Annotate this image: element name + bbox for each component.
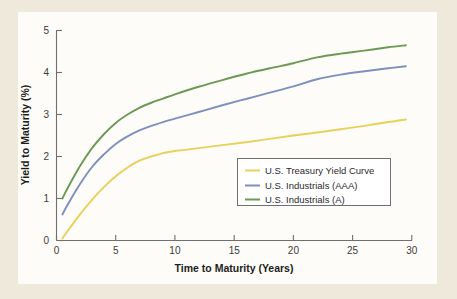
x-tick-label-20: 20 bbox=[288, 245, 300, 256]
y-axis-ticks bbox=[57, 31, 63, 241]
chart-legend: U.S. Treasury Yield Curve U.S. Industria… bbox=[238, 159, 391, 206]
y-tick-label-1: 1 bbox=[43, 193, 49, 204]
legend-label-1: U.S. Industrials (AAA) bbox=[265, 180, 357, 191]
x-tick-label-25: 25 bbox=[347, 245, 359, 256]
x-tick-label-5: 5 bbox=[113, 245, 119, 256]
y-tick-label-0: 0 bbox=[43, 235, 49, 246]
y-axis-tick-labels: 5 4 3 2 1 0 bbox=[43, 25, 49, 246]
y-tick-label-2: 2 bbox=[43, 151, 49, 162]
x-axis-tick-labels: 0 5 10 15 20 25 30 bbox=[54, 245, 418, 256]
y-tick-label-4: 4 bbox=[43, 67, 49, 78]
legend-label-2: U.S. Industrials (A) bbox=[265, 194, 345, 205]
x-tick-label-30: 30 bbox=[406, 245, 418, 256]
x-tick-label-10: 10 bbox=[169, 245, 181, 256]
y-tick-label-5: 5 bbox=[43, 25, 49, 36]
x-axis-title: Time to Maturity (Years) bbox=[175, 262, 294, 274]
series-group bbox=[62, 45, 405, 238]
y-tick-label-3: 3 bbox=[43, 109, 49, 120]
x-tick-label-0: 0 bbox=[54, 245, 60, 256]
yield-curve-chart: 5 4 3 2 1 0 0 5 10 15 20 25 30 T bbox=[0, 0, 457, 299]
legend-label-0: U.S. Treasury Yield Curve bbox=[265, 165, 374, 176]
y-axis-title: Yield to Maturity (%) bbox=[19, 85, 31, 186]
yield-curve-figure: 5 4 3 2 1 0 0 5 10 15 20 25 30 T bbox=[0, 0, 457, 299]
x-axis-ticks bbox=[57, 235, 412, 241]
x-tick-label-15: 15 bbox=[229, 245, 241, 256]
